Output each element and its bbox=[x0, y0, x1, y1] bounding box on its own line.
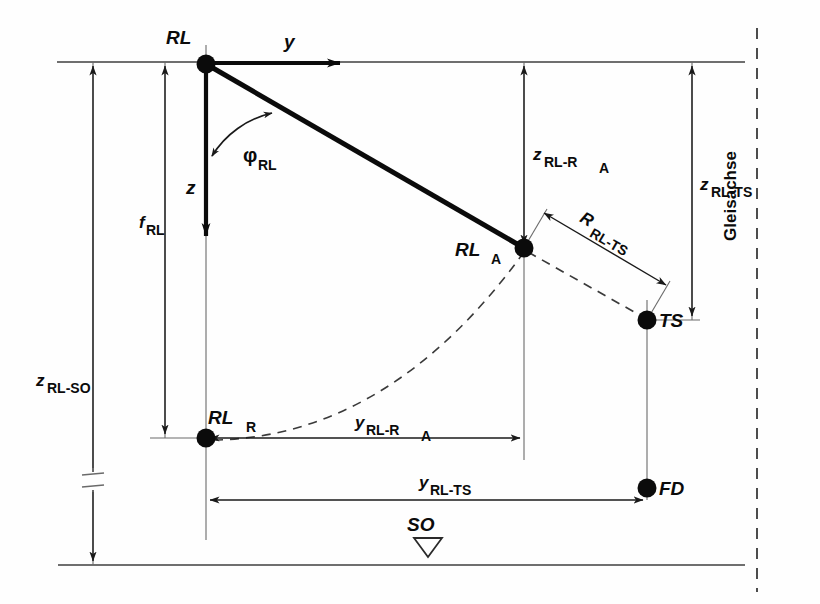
so-benchmark-triangle-icon bbox=[414, 538, 442, 557]
label-z-rl-ra-base: z bbox=[532, 145, 542, 164]
label-z-rl-ra-sub: RL-R bbox=[544, 154, 577, 170]
label-r-rl-ts: R RL-TS bbox=[573, 208, 636, 259]
point-marker-rl-a bbox=[515, 239, 534, 258]
label-fd-text: FD bbox=[659, 478, 685, 499]
label-f-rl: f RL bbox=[139, 213, 165, 238]
label-so-text: SO bbox=[407, 514, 435, 535]
label-r-rl-ts-sub: RL-TS bbox=[587, 225, 631, 259]
label-y-rl-ra-sub: RL-R bbox=[366, 422, 399, 438]
label-phi-rl: φ RL bbox=[243, 144, 277, 173]
label-phi-sub: RL bbox=[258, 157, 277, 173]
label-fd: FD bbox=[659, 478, 685, 499]
label-y-rl-ts-base: y bbox=[418, 473, 430, 492]
label-phi-glyph: φ bbox=[243, 144, 257, 166]
label-rl-a: RL A bbox=[455, 239, 501, 267]
label-rl-text: RL bbox=[166, 27, 191, 48]
label-axis-z: z bbox=[185, 177, 196, 198]
label-z-rl-ra: z RL-R A bbox=[532, 145, 609, 176]
label-so: SO bbox=[407, 514, 435, 535]
label-ts: TS bbox=[659, 310, 684, 331]
label-z-rl-so: z RL-SO bbox=[35, 371, 91, 396]
label-rl-r-sub: R bbox=[246, 419, 256, 435]
label-f-rl-sub: RL bbox=[146, 222, 165, 238]
label-z-rl-ra-sub2: A bbox=[599, 160, 609, 176]
dashed-radius-arc bbox=[214, 252, 524, 440]
label-y-rl-ts-sub: RL-TS bbox=[430, 482, 471, 498]
label-rl-r: RL R bbox=[208, 407, 256, 435]
label-y-rl-ts: y RL-TS bbox=[418, 473, 471, 498]
label-axis-z-text: z bbox=[185, 177, 196, 198]
point-marker-rl bbox=[197, 55, 216, 74]
extension-lines bbox=[93, 45, 700, 565]
label-z-rl-ts-sub: RL-TS bbox=[711, 184, 752, 200]
point-marker-rl-r bbox=[197, 429, 216, 448]
label-rl-a-base: RL bbox=[455, 239, 480, 260]
point-marker-fd bbox=[638, 479, 657, 498]
label-z-rl-so-base: z bbox=[35, 371, 45, 390]
label-y-rl-ra-base: y bbox=[354, 413, 366, 432]
label-axis-y: y bbox=[283, 31, 296, 52]
label-y-rl-ra: y RL-R A bbox=[354, 413, 431, 444]
railway-geometry-diagram: Gleisachse bbox=[0, 0, 820, 604]
label-rl-r-base: RL bbox=[208, 407, 233, 428]
label-rl-a-sub: A bbox=[491, 251, 501, 267]
label-rl: RL bbox=[166, 27, 191, 48]
label-ts-text: TS bbox=[659, 310, 684, 331]
angle-arc-phi-rl bbox=[212, 113, 272, 156]
point-marker-ts bbox=[638, 311, 657, 330]
label-z-rl-ts-base: z bbox=[699, 175, 709, 194]
label-z-rl-so-sub: RL-SO bbox=[47, 380, 91, 396]
dimension-break-symbol bbox=[82, 473, 104, 487]
label-y-rl-ra-sub2: A bbox=[421, 428, 431, 444]
label-axis-y-text: y bbox=[283, 31, 296, 52]
